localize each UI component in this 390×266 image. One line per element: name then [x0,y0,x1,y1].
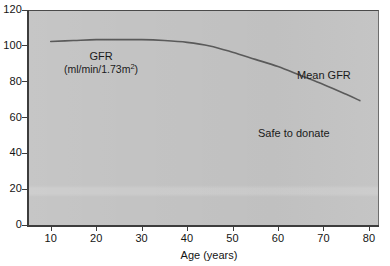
y-tick-mark [22,225,27,226]
x-tick-mark [96,226,97,231]
mean-gfr-label: Mean GFR [297,69,351,82]
x-tick-mark [51,226,52,231]
safe-to-donate-label: Safe to donate [258,127,330,140]
x-tick-label: 60 [261,233,295,244]
x-tick-label: 40 [170,233,204,244]
y-axis-line [27,10,29,226]
y-tick-mark [22,45,27,46]
y-tick-label: 80 [0,76,22,87]
x-tick-label: 50 [216,233,250,244]
x-tick-label: 20 [79,233,113,244]
x-tick-mark [142,226,143,231]
gfr-note-units: (ml/min/1.73m2) [36,63,166,76]
gfr-note-title: GFR [36,50,166,63]
x-tick-label: 70 [306,233,340,244]
y-tick-mark [22,189,27,190]
y-tick-mark [22,153,27,154]
y-tick-label: 40 [0,147,22,158]
x-tick-label: 30 [125,233,159,244]
mean-gfr-curve [28,11,378,226]
gfr-units-prefix: (ml/min/1.73m [64,63,131,75]
x-tick-mark [369,226,370,231]
x-tick-mark [278,226,279,231]
y-tick-label: 100 [0,40,22,51]
y-tick-mark [22,81,27,82]
y-tick-mark [22,10,27,11]
x-tick-label: 80 [352,233,386,244]
plot-area [28,10,379,226]
x-axis-title: Age (years) [0,249,390,261]
y-tick-label: 20 [0,183,22,194]
y-tick-label: 120 [0,4,22,15]
y-tick-label: 60 [0,112,22,123]
gfr-axis-note: GFR (ml/min/1.73m2) [36,50,166,76]
gfr-units-suffix: ) [135,63,139,75]
gfr-vs-age-chart: 020406080100120 1020304050607080 Age (ye… [0,0,390,266]
x-tick-label: 10 [34,233,68,244]
x-tick-mark [187,226,188,231]
x-tick-mark [323,226,324,231]
y-tick-label: 0 [0,219,22,230]
y-tick-mark [22,117,27,118]
x-axis-line [27,225,379,227]
x-tick-mark [233,226,234,231]
